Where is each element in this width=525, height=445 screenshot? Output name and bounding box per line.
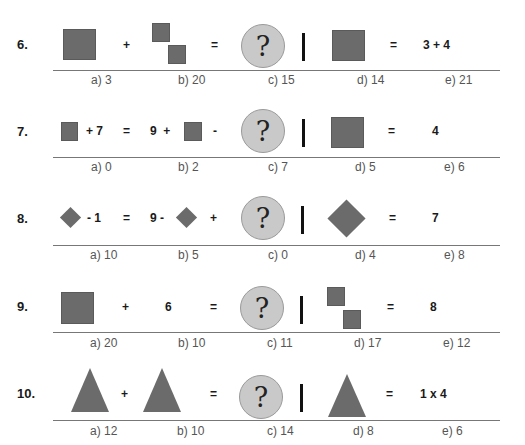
divider-line — [53, 420, 500, 421]
diamond-shape — [327, 199, 365, 237]
question-mark-icon: ? — [241, 109, 285, 153]
answer-option-e[interactable]: e) 6 — [442, 424, 463, 438]
plus-operator: + — [121, 387, 128, 401]
question-mark-icon: ? — [239, 375, 283, 419]
divider-line — [53, 157, 500, 158]
question-8: 8. - 1 = 9 - + ? = 7 a) 10 b) 5 c) 0 d) … — [0, 174, 525, 261]
left-text: - 1 — [87, 211, 101, 225]
triangle-shape — [328, 374, 366, 417]
answer-option-a[interactable]: a) 0 — [91, 160, 112, 174]
answer-option-a[interactable]: a) 10 — [90, 248, 117, 262]
triangle-shape — [71, 368, 109, 412]
square-shape-small-top — [152, 23, 170, 42]
square-shape — [61, 292, 94, 324]
square-shape — [331, 117, 364, 148]
left-text: 9 + — [150, 124, 170, 138]
divider-line — [53, 70, 500, 71]
diamond-shape — [60, 207, 81, 228]
question-number: 10. — [17, 386, 35, 401]
question-10: 10. + = ? = 1 x 4 a) 12 b) 10 c) 14 d) 8… — [0, 348, 525, 435]
equals-operator: = — [210, 300, 217, 314]
answer-option-c[interactable]: c) 14 — [267, 424, 294, 438]
divider-bar — [302, 33, 305, 61]
answer-option-e[interactable]: e) 21 — [445, 73, 472, 87]
answer-option-b[interactable]: b) 10 — [177, 424, 204, 438]
question-number: 8. — [17, 211, 28, 226]
equals-operator: = — [210, 387, 217, 401]
divider-line — [53, 245, 500, 246]
square-shape — [63, 29, 96, 60]
right-value: 4 — [432, 124, 439, 138]
equals-operator: = — [211, 38, 218, 52]
triangle-shape — [143, 368, 181, 412]
right-value: 3 + 4 — [423, 38, 450, 52]
answer-option-a[interactable]: a) 12 — [90, 424, 117, 438]
equals-operator: = — [387, 300, 394, 314]
plus-operator: + — [122, 300, 129, 314]
square-shape-small-bottom — [343, 310, 361, 329]
square-shape — [184, 122, 202, 141]
answer-option-b[interactable]: b) 20 — [178, 73, 205, 87]
answer-option-d[interactable]: d) 8 — [353, 424, 374, 438]
divider-bar — [302, 119, 305, 147]
square-shape — [61, 122, 78, 141]
answer-option-d[interactable]: d) 14 — [357, 73, 384, 87]
minus-operator: - — [213, 124, 217, 138]
square-shape-small-top — [327, 287, 345, 306]
answer-option-e[interactable]: e) 6 — [444, 160, 465, 174]
equals-operator: = — [386, 387, 393, 401]
middle-value: 6 — [165, 300, 172, 314]
divider-line — [53, 332, 500, 333]
answer-option-c[interactable]: c) 0 — [268, 248, 288, 262]
question-mark-icon: ? — [241, 24, 285, 68]
question-mark-icon: ? — [241, 196, 285, 240]
left-text: + 7 — [86, 124, 103, 138]
question-number: 6. — [17, 37, 28, 52]
plus-operator: + — [123, 38, 130, 52]
square-shape — [332, 30, 365, 61]
answer-option-a[interactable]: a) 3 — [91, 73, 112, 87]
divider-bar — [300, 296, 303, 324]
question-mark-icon: ? — [240, 286, 284, 330]
answer-option-e[interactable]: e) 8 — [444, 248, 465, 262]
question-number: 7. — [17, 124, 28, 139]
answer-option-d[interactable]: d) 5 — [355, 160, 376, 174]
divider-bar — [301, 206, 304, 234]
question-6: 6. + = ? = 3 + 4 a) 3 b) 20 c) 15 d) 14 … — [0, 0, 525, 87]
question-7: 7. + 7 = 9 + - ? = 4 a) 0 b) 2 c) 7 d) 5… — [0, 87, 525, 174]
equals-operator: = — [388, 124, 395, 138]
plus-operator: + — [210, 211, 217, 225]
divider-bar — [300, 384, 303, 412]
question-number: 9. — [17, 299, 28, 314]
square-shape-small-bottom — [168, 45, 186, 64]
right-value: 7 — [432, 211, 439, 225]
answer-option-b[interactable]: b) 2 — [178, 160, 199, 174]
question-9: 9. + 6 = ? = 8 a) 20 b) 10 c) 11 d) 17 e… — [0, 261, 525, 348]
left-text: 9 - — [150, 211, 164, 225]
equals-operator: = — [389, 211, 396, 225]
equals-operator: = — [123, 124, 130, 138]
equals-operator: = — [390, 38, 397, 52]
answer-option-c[interactable]: c) 7 — [268, 160, 288, 174]
answer-option-c[interactable]: c) 15 — [268, 73, 295, 87]
right-value: 1 x 4 — [420, 387, 447, 401]
equals-operator: = — [123, 211, 130, 225]
answer-option-b[interactable]: b) 5 — [178, 248, 199, 262]
right-value: 8 — [430, 300, 437, 314]
diamond-shape — [176, 207, 197, 228]
answer-option-d[interactable]: d) 4 — [355, 248, 376, 262]
